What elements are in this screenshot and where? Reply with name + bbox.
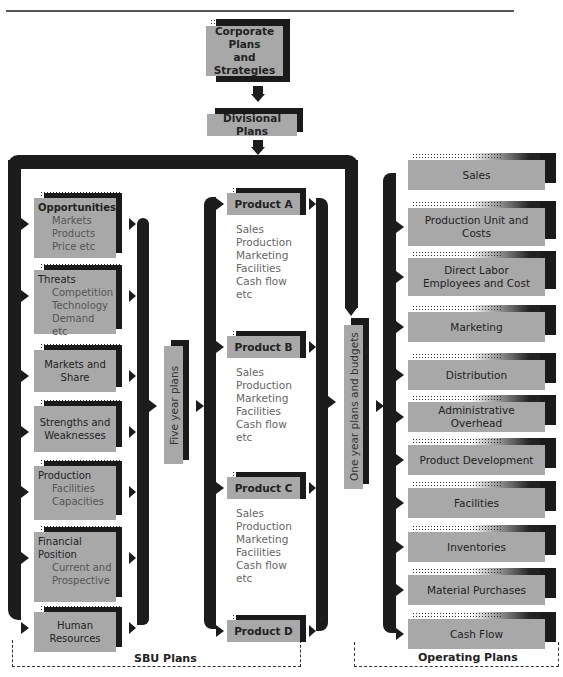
product-item: etc (236, 288, 292, 301)
operating-plan-box[interactable]: Marketing (408, 312, 545, 342)
operating-plan-box[interactable]: Inventories (408, 532, 545, 562)
sbu-box-sub: Competition (38, 286, 112, 299)
product-item: etc (236, 431, 292, 444)
sbu-box-title: Financial Position (38, 535, 112, 561)
product-item: Facilities (236, 546, 292, 559)
product-item: Production (236, 236, 292, 249)
product-items-list: SalesProductionMarketingFacilitiesCash f… (236, 223, 292, 301)
product-item: Cash flow (236, 418, 292, 431)
operating-plan-box[interactable]: Facilities (408, 488, 545, 518)
arrow-right-icon (21, 290, 29, 302)
arrow-right-icon (396, 584, 404, 596)
operating-plan-label: Facilities (454, 497, 499, 510)
arrow-right-icon (309, 482, 316, 494)
sbu-box[interactable]: Human Resources (34, 612, 116, 652)
sbu-box-sub: Price etc (38, 240, 112, 253)
operating-plan-label: Inventories (447, 541, 506, 554)
product-item: Production (236, 379, 292, 392)
corporate-line: Corporate (215, 25, 274, 38)
sbu-box-title: Production (38, 469, 112, 482)
product-box[interactable]: Product D (227, 620, 300, 642)
corporate-plans-box[interactable]: Corporate Plans and Strategies (206, 26, 283, 76)
arrow-right-icon (21, 426, 29, 438)
operating-plan-box[interactable]: Distribution (408, 360, 545, 390)
corporate-line: Plans (228, 38, 260, 51)
arrow-right-icon (196, 400, 204, 412)
sbu-box-sub: Capacities (38, 495, 112, 508)
operating-plan-box[interactable]: Administrative Overhead (408, 402, 545, 432)
arrow-right-icon (21, 622, 29, 634)
product-items-list: SalesProductionMarketingFacilitiesCash f… (236, 366, 292, 444)
operating-plan-box[interactable]: Direct Labor Employees and Cost (408, 258, 545, 296)
sbu-box[interactable]: Markets and Share (34, 350, 116, 392)
arrow-right-icon (396, 541, 404, 553)
product-item: Facilities (236, 405, 292, 418)
sbu-box-sub: Products (38, 227, 112, 240)
arrow-right-icon (129, 370, 136, 382)
arrow-right-icon (129, 218, 136, 230)
five-year-plans-box[interactable]: Five year plans (164, 346, 183, 464)
product-name: Product D (234, 625, 293, 638)
sbu-box[interactable]: ThreatsCompetitionTechnologyDemand etc (34, 270, 116, 334)
arrow-right-icon (396, 411, 404, 423)
operating-plans-label: Operating Plans (418, 651, 518, 664)
arrow-down-icon (251, 147, 265, 155)
main-bracket (8, 155, 358, 169)
sbu-box-sub: Markets (38, 214, 112, 227)
arrow-right-icon (216, 198, 224, 210)
connector (253, 140, 263, 147)
right-drop (345, 160, 358, 308)
arrow-right-icon (396, 221, 404, 233)
corporate-line: and Strategies (206, 51, 283, 77)
product-item: Marketing (236, 249, 292, 262)
connector (253, 86, 263, 94)
sbu-box-title: Markets and Share (38, 358, 112, 384)
sbu-box-sub: Current and (38, 561, 112, 574)
sbu-box[interactable]: Financial PositionCurrent andProspective (34, 532, 116, 602)
operating-plan-label: Administrative Overhead (416, 404, 537, 430)
one-year-plans-box[interactable]: One year plans and budgets (344, 325, 363, 489)
product-item: Sales (236, 223, 292, 236)
one-year-label: One year plans and budgets (348, 333, 360, 482)
divisional-label: Divisional Plans (207, 112, 297, 138)
arrow-right-icon (396, 454, 404, 466)
product-item: Marketing (236, 533, 292, 546)
arrow-right-icon (309, 625, 316, 637)
arrow-right-icon (396, 628, 404, 640)
product-item: Facilities (236, 262, 292, 275)
operating-plan-label: Product Development (420, 454, 534, 467)
sbu-box[interactable]: Strengths and Weaknesses (34, 406, 116, 452)
divisional-plans-box[interactable]: Divisional Plans (207, 114, 297, 136)
product-right-bracket (316, 198, 328, 631)
sbu-box-title: Opportunities (38, 201, 112, 214)
arrow-right-icon (21, 486, 29, 498)
product-box[interactable]: Product C (227, 477, 300, 499)
sbu-box[interactable]: OpportunitiesMarketsProductsPrice etc (34, 198, 116, 258)
product-box[interactable]: Product A (227, 193, 300, 215)
operating-plan-box[interactable]: Sales (408, 160, 545, 190)
arrow-right-icon (129, 552, 136, 564)
product-name: Product B (235, 341, 293, 354)
operating-plan-label: Material Purchases (427, 584, 526, 597)
arrow-right-icon (328, 396, 336, 408)
operating-plan-label: Direct Labor Employees and Cost (416, 264, 537, 290)
arrow-right-icon (129, 426, 136, 438)
product-name: Product C (235, 482, 293, 495)
operating-plan-box[interactable]: Cash Flow (408, 619, 545, 649)
arrow-down-icon (251, 94, 265, 102)
operating-plan-box[interactable]: Product Development (408, 445, 545, 475)
sbu-plans-label: SBU Plans (134, 652, 197, 665)
product-box[interactable]: Product B (227, 336, 300, 358)
five-year-label: Five year plans (168, 365, 180, 444)
product-item: Cash flow (236, 559, 292, 572)
product-item: Sales (236, 507, 292, 520)
arrow-right-icon (129, 290, 136, 302)
product-item: Sales (236, 366, 292, 379)
arrow-right-icon (309, 341, 316, 353)
operating-plan-box[interactable]: Production Unit and Costs (408, 208, 545, 246)
arrow-right-icon (21, 218, 29, 230)
arrow-right-icon (396, 321, 404, 333)
sbu-box[interactable]: ProductionFacilitiesCapacities (34, 466, 116, 520)
operating-plan-box[interactable]: Material Purchases (408, 575, 545, 605)
product-item: etc (236, 572, 292, 585)
